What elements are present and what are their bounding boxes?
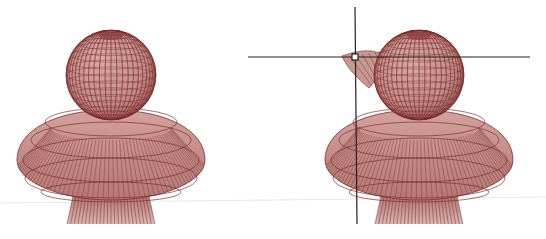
disc (325, 108, 513, 202)
disc (17, 108, 205, 202)
original-mesh (17, 30, 205, 224)
control-point-handle[interactable] (352, 54, 358, 60)
sphere-pole (407, 32, 431, 40)
sphere (342, 30, 464, 120)
sphere (66, 30, 156, 120)
figure (0, 0, 546, 239)
mesh-figure (0, 0, 546, 239)
sphere-pole (99, 32, 123, 40)
